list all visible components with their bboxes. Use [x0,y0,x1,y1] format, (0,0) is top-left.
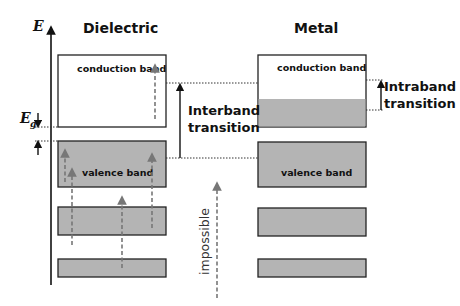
metal-valence-band [258,142,366,187]
dielectric-conduction-band-label: conduction band [77,63,166,74]
metal-bands: conduction band valence band [258,55,366,277]
interband-label-line1: Interband [188,103,260,118]
band-gap-marker: E g [19,110,58,155]
impossible-label: impossible [197,208,212,275]
dielectric-lower-band-1 [58,207,166,235]
intraband-label-line2: transition [384,96,456,111]
intraband-label-line1: Intraband [384,79,456,94]
energy-axis-label: E [32,18,44,34]
dielectric-bands: conduction band valence band [58,55,166,277]
metal-lower-band-2 [258,259,366,277]
energy-axis: E [32,18,51,285]
intraband-transition: Intraband transition [366,79,456,111]
metal-conduction-band-label: conduction band [277,62,366,73]
metal-lower-band-1 [258,208,366,236]
interband-label-line2: transition [188,120,260,135]
interband-transition: Interband transition [166,83,260,158]
band-diagram: E E g Dielectric Metal conduction band v… [0,0,460,306]
dielectric-valence-band [58,141,166,187]
metal-filled-conduction [259,99,366,126]
dielectric-lower-band-2 [58,259,166,277]
dielectric-title: Dielectric [83,20,158,36]
dielectric-valence-band-label: valence band [82,167,153,178]
impossible-transition: impossible [197,186,217,298]
metal-title: Metal [294,20,338,36]
metal-valence-band-label: valence band [281,167,352,178]
